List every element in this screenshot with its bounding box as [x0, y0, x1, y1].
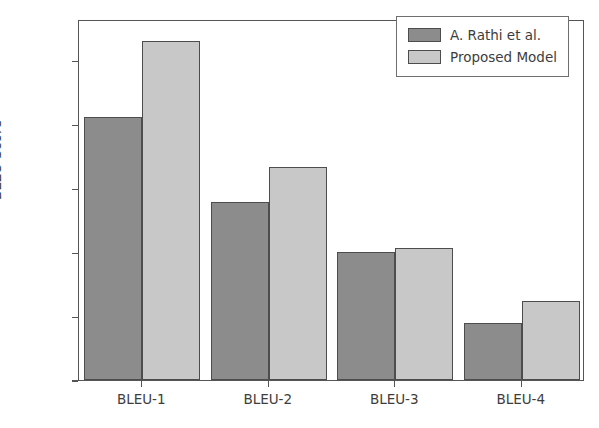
x-axis-tick-label-bleu-2: BLEU-2 [243, 391, 292, 407]
x-axis-tick-mark [141, 381, 142, 387]
x-axis-tick-mark [394, 381, 395, 387]
bar-bleu-1-series-1 [84, 117, 142, 380]
bar-bleu-1-series-2 [142, 41, 200, 380]
x-axis-tick-mark [521, 381, 522, 387]
bar-bleu-4-series-2 [522, 301, 580, 380]
x-axis-tick-label-bleu-3: BLEU-3 [370, 391, 419, 407]
bleu-score-bar-chart: BLEU Score 0.00.10.20.30.40.5 BLEU-1BLEU… [0, 0, 599, 428]
bar-bleu-3-series-1 [337, 252, 395, 380]
bar-bleu-4-series-1 [464, 323, 522, 380]
bar-bleu-2-series-1 [211, 202, 269, 380]
legend: A. Rathi et al.Proposed Model [396, 16, 569, 77]
legend-label: Proposed Model [450, 49, 557, 65]
legend-item-2: Proposed Model [408, 46, 557, 68]
legend-swatch-icon [408, 28, 441, 42]
legend-swatch-icon [408, 50, 441, 64]
y-axis-label: BLEU Score [0, 120, 4, 200]
bar-bleu-2-series-2 [269, 167, 327, 380]
x-axis-tick-mark [268, 381, 269, 387]
x-axis-tick-label-bleu-1: BLEU-1 [117, 391, 166, 407]
legend-item-1: A. Rathi et al. [408, 24, 557, 46]
bar-bleu-3-series-2 [395, 248, 453, 380]
legend-label: A. Rathi et al. [450, 27, 541, 43]
x-axis-tick-label-bleu-4: BLEU-4 [496, 391, 545, 407]
